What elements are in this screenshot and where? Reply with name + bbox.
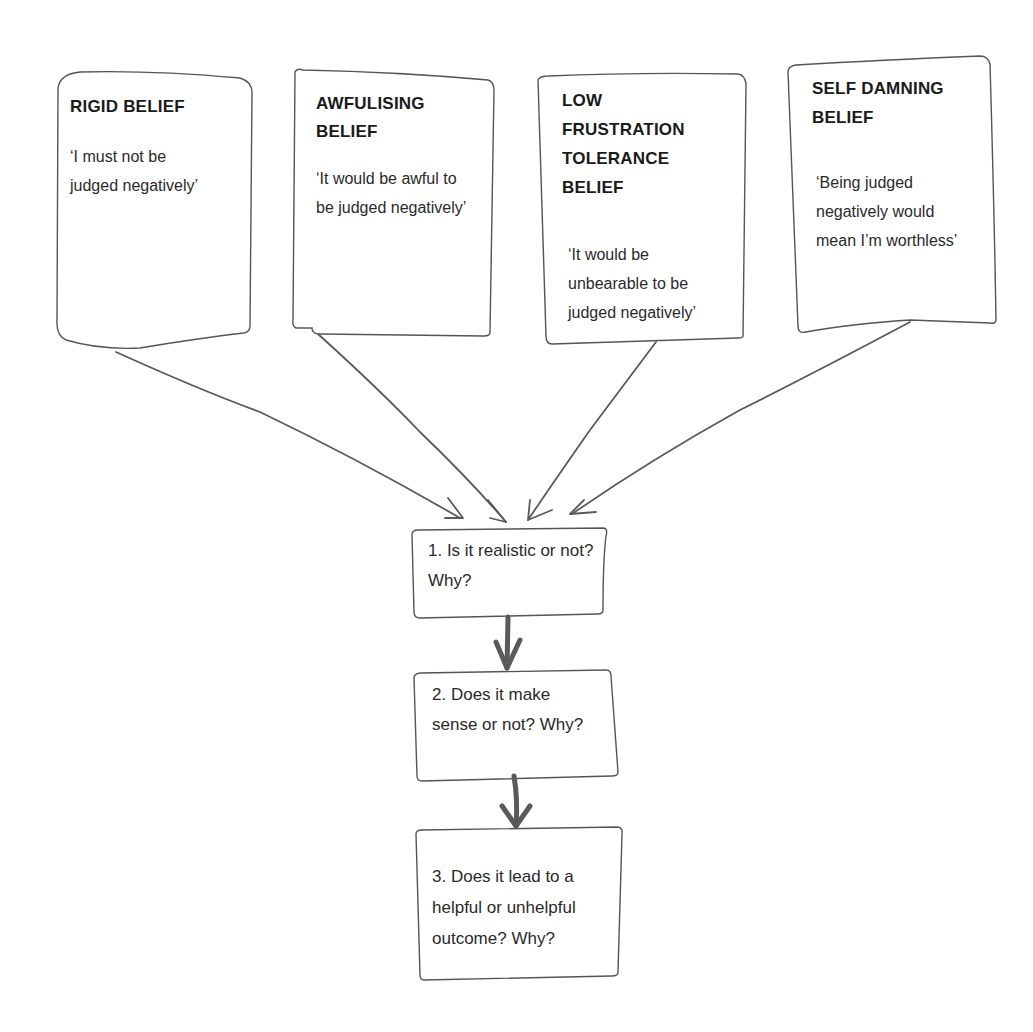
step-2-makes-sense: 2. Does it make sense or not? Why? [432,680,597,740]
arrowhead-awfulising [488,500,506,522]
belief-title: AWFULISING BELIEF [316,90,456,146]
belief-title: RIGID BELIEF [70,94,242,120]
step-text: 2. Does it make sense or not? Why? [432,685,583,734]
arrow-step2-to-step3 [514,776,517,826]
belief-card-rigid: RIGID BELIEF ‘I must not be judged negat… [70,94,242,200]
belief-quote: ‘It would be awful to be judged negative… [316,164,476,222]
belief-quote: ‘I must not be judged negatively’ [70,142,200,200]
step-1-realistic: 1. Is it realistic or not? Why? [428,536,600,596]
belief-card-low-frustration-tolerance: LOW FRUSTRATION TOLERANCE BELIEF ‘It wou… [562,86,732,327]
step-3-helpful-outcome: 3. Does it lead to a helpful or unhelpfu… [432,861,612,954]
arrow-lft-to-step1 [528,342,656,520]
belief-card-awfulising: AWFULISING BELIEF ‘It would be awful to … [316,90,476,222]
belief-quote: ‘It would be unbearable to be judged neg… [562,240,733,327]
arrow-rigid-to-step1 [116,352,460,518]
arrow-awfulising-to-step1 [318,334,506,522]
belief-card-self-damning: SELF DAMNING BELIEF ‘Being judged negati… [812,74,982,255]
belief-title: SELF DAMNING BELIEF [812,74,977,132]
step-text: 1. Is it realistic or not? Why? [428,541,593,590]
belief-title: LOW FRUSTRATION TOLERANCE BELIEF [562,86,712,202]
arrow-self-damning-to-step1 [572,322,910,514]
step-text: 3. Does it lead to a helpful or unhelpfu… [432,867,576,948]
belief-quote: ‘Being judged negatively would mean I’m … [812,168,971,255]
